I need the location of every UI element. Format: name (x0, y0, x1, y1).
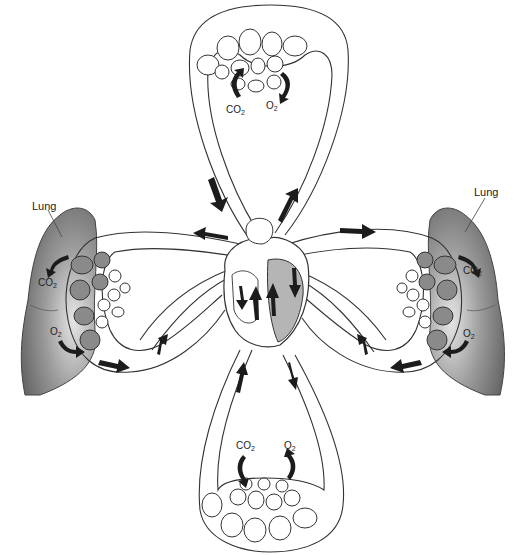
top-co2-sub: 2 (241, 109, 245, 116)
left-lung (21, 208, 96, 395)
right-o2-text: O (463, 328, 471, 339)
label-left-o2: O2 (50, 326, 62, 338)
top-co2-text: CO (226, 104, 241, 115)
label-bottom-o2: O2 (284, 440, 296, 452)
circulation-diagram (0, 0, 527, 555)
top-o2-sub: 2 (274, 105, 278, 112)
bottom-co2-sub: 2 (251, 445, 255, 452)
left-co2-text: CO (38, 277, 53, 288)
bottom-o2-text: O (284, 440, 292, 451)
right-co2-text: CO (463, 265, 478, 276)
bottom-o2-sub: 2 (292, 445, 296, 452)
left-o2-text: O (50, 326, 58, 337)
label-left-co2: CO2 (38, 277, 57, 289)
bottom-co2-text: CO (236, 440, 251, 451)
label-right-co2: CO2 (463, 265, 482, 277)
right-co2-sub: 2 (478, 270, 482, 277)
label-top-co2: CO2 (226, 104, 245, 116)
lower-systemic-loop (199, 350, 343, 552)
left-o2-sub: 2 (58, 331, 62, 338)
right-o2-sub: 2 (471, 333, 475, 340)
left-co2-sub: 2 (53, 282, 57, 289)
top-o2-text: O (266, 100, 274, 111)
label-lung-left: Lung (32, 200, 56, 212)
top-capillary-bed (197, 29, 307, 92)
label-lung-right: Lung (474, 186, 498, 198)
label-right-o2: O2 (463, 328, 475, 340)
label-top-o2: O2 (266, 100, 278, 112)
label-bottom-co2: CO2 (236, 440, 255, 452)
